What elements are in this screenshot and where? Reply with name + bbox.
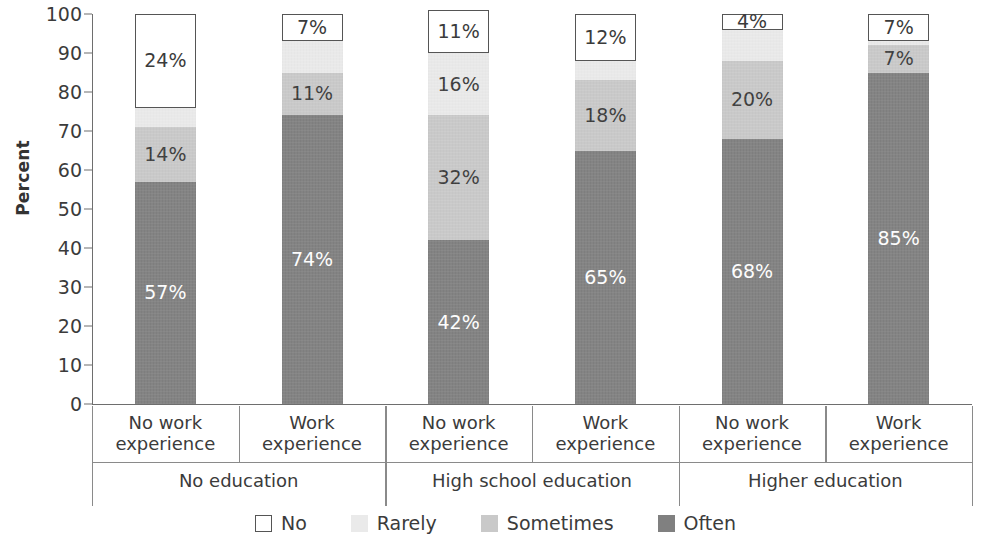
y-axis-tick-label: 30 bbox=[30, 278, 82, 297]
y-axis-tick-mark bbox=[84, 404, 92, 405]
bar-segment-label: 65% bbox=[584, 268, 626, 287]
legend-label: Sometimes bbox=[507, 512, 614, 534]
bar-segment-often[interactable]: 85% bbox=[868, 73, 929, 405]
x-axis-separator bbox=[825, 406, 826, 462]
bar-segment-label: 11% bbox=[438, 22, 480, 41]
y-axis-tick-mark bbox=[84, 170, 92, 171]
x-axis-separator bbox=[972, 406, 973, 462]
y-axis-tick-mark bbox=[84, 92, 92, 93]
y-axis-tick-mark bbox=[84, 53, 92, 54]
bar-segment-rarely[interactable]: 5% bbox=[135, 108, 196, 128]
x-axis-separator bbox=[92, 406, 93, 462]
bar-segment-no[interactable]: 7% bbox=[868, 14, 929, 41]
x-axis-group-label: Higher education bbox=[679, 470, 972, 491]
bar-segment-often[interactable]: 68% bbox=[722, 139, 783, 404]
bar-segment-no[interactable]: 7% bbox=[282, 14, 343, 41]
bar-segment-rarely[interactable]: 8% bbox=[722, 30, 783, 61]
x-axis-category-label: Work experience bbox=[532, 412, 679, 454]
x-axis-group-separator bbox=[385, 462, 386, 506]
x-axis-group-labels: No educationHigh school educationHigher … bbox=[92, 466, 972, 506]
bar-segment-label: 12% bbox=[584, 28, 626, 47]
bar-segment-rarely[interactable]: 16% bbox=[428, 53, 489, 115]
bar-segment-label: 57% bbox=[144, 283, 186, 302]
bar-column[interactable]: 4%8%20%68% bbox=[722, 14, 783, 404]
bar-segment-label: 85% bbox=[878, 229, 920, 248]
y-axis-tick-mark bbox=[84, 365, 92, 366]
y-axis-tick-label: 100 bbox=[30, 5, 82, 24]
bar-segment-label: 42% bbox=[438, 313, 480, 332]
bar-column[interactable]: 11%16%32%42% bbox=[428, 10, 489, 404]
bar-segment-often[interactable]: 65% bbox=[575, 151, 636, 405]
bar-segment-label: 4% bbox=[737, 12, 767, 31]
y-axis-tick-labels: 1009080706050403020100 bbox=[30, 0, 82, 420]
x-axis-category-label: No work experience bbox=[92, 412, 239, 454]
x-axis-category-label: No work experience bbox=[385, 412, 532, 454]
bar-segment-sometimes[interactable]: 7% bbox=[868, 45, 929, 72]
legend-item[interactable]: Sometimes bbox=[481, 512, 614, 534]
stacked-bar-chart: Percent 1009080706050403020100 24%5%14%5… bbox=[0, 0, 991, 548]
bar-segment-no[interactable]: 11% bbox=[428, 10, 489, 53]
bar-segment-no[interactable]: 24% bbox=[135, 14, 196, 108]
bar-segment-no[interactable]: 4% bbox=[722, 14, 783, 30]
bar-segment-label: 32% bbox=[438, 168, 480, 187]
bar-segment-sometimes[interactable]: 11% bbox=[282, 73, 343, 116]
x-axis-group-separator bbox=[92, 462, 93, 506]
bar-segment-label: 68% bbox=[731, 262, 773, 281]
bar-segment-no[interactable]: 12% bbox=[575, 14, 636, 61]
y-axis-tick-label: 60 bbox=[30, 161, 82, 180]
bar-segment-label: 7% bbox=[884, 49, 914, 68]
y-axis-tick-label: 40 bbox=[30, 239, 82, 258]
y-axis-tick-label: 20 bbox=[30, 317, 82, 336]
y-axis-tick-label: 50 bbox=[30, 200, 82, 219]
x-axis-category-label: Work experience bbox=[825, 412, 972, 454]
y-axis-tick-mark bbox=[84, 209, 92, 210]
legend-item[interactable]: Rarely bbox=[351, 512, 437, 534]
x-axis-category-label: Work experience bbox=[239, 412, 386, 454]
bar-segment-label: 11% bbox=[291, 84, 333, 103]
legend-item[interactable]: No bbox=[255, 512, 307, 534]
bar-segment-label: 16% bbox=[438, 75, 480, 94]
plot-area: 24%5%14%57%7%8%11%74%11%16%32%42%12%5%18… bbox=[92, 14, 972, 404]
bar-segment-often[interactable]: 74% bbox=[282, 115, 343, 404]
bar-segment-sometimes[interactable]: 14% bbox=[135, 127, 196, 182]
legend-item[interactable]: Often bbox=[658, 512, 737, 534]
x-axis-tier-divider bbox=[92, 462, 972, 463]
bar-segment-rarely[interactable]: 5% bbox=[575, 61, 636, 81]
y-axis-tick-label: 90 bbox=[30, 44, 82, 63]
legend-label: Rarely bbox=[377, 512, 437, 534]
bar-segment-sometimes[interactable]: 18% bbox=[575, 80, 636, 150]
chart-legend: NoRarelySometimesOften bbox=[0, 512, 991, 534]
x-axis-separator bbox=[679, 406, 680, 462]
x-axis-group-label: High school education bbox=[385, 470, 678, 491]
bar-segment-label: 20% bbox=[731, 90, 773, 109]
y-axis-tick-label: 0 bbox=[30, 395, 82, 414]
bar-segment-label: 18% bbox=[584, 106, 626, 125]
x-axis-separator bbox=[532, 406, 533, 462]
bar-segment-sometimes[interactable]: 20% bbox=[722, 61, 783, 139]
bar-segment-label: 74% bbox=[291, 250, 333, 269]
y-axis-tick-label: 10 bbox=[30, 356, 82, 375]
bar-segment-label: 24% bbox=[144, 51, 186, 70]
x-axis-group-label: No education bbox=[92, 470, 385, 491]
y-axis-tick-label: 80 bbox=[30, 83, 82, 102]
bar-segment-often[interactable]: 42% bbox=[428, 240, 489, 404]
bar-column[interactable]: 7%1%7%85% bbox=[868, 14, 929, 404]
x-axis-group-separator bbox=[679, 462, 680, 506]
bar-column[interactable]: 7%8%11%74% bbox=[282, 14, 343, 404]
legend-label: Often bbox=[684, 512, 737, 534]
x-axis-separator bbox=[385, 406, 386, 462]
y-axis-tick-mark bbox=[84, 14, 92, 15]
x-axis-category-label: No work experience bbox=[679, 412, 826, 454]
bar-segment-often[interactable]: 57% bbox=[135, 182, 196, 404]
bar-segment-label: 7% bbox=[884, 18, 914, 37]
legend-swatch-icon bbox=[255, 515, 272, 532]
y-axis-tick-mark bbox=[84, 131, 92, 132]
bar-column[interactable]: 12%5%18%65% bbox=[575, 14, 636, 404]
y-axis-tick-label: 70 bbox=[30, 122, 82, 141]
bar-segment-rarely[interactable]: 8% bbox=[282, 41, 343, 72]
bar-segment-sometimes[interactable]: 32% bbox=[428, 115, 489, 240]
bar-column[interactable]: 24%5%14%57% bbox=[135, 14, 196, 404]
legend-swatch-icon bbox=[351, 515, 368, 532]
bar-segment-label: 7% bbox=[297, 18, 327, 37]
bar-segment-label: 14% bbox=[144, 145, 186, 164]
